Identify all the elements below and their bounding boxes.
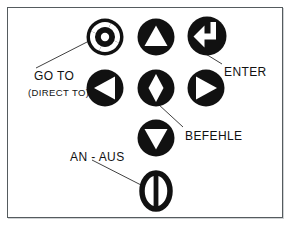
leader-line-go-to (36, 41, 89, 68)
button-befehle[interactable] (137, 69, 175, 107)
label-enter: ENTER (224, 66, 267, 78)
label-go-to: GO TO (34, 70, 74, 82)
button-up[interactable] (137, 18, 175, 56)
enter-return-arrow-icon (187, 16, 227, 56)
button-right[interactable] (187, 69, 225, 107)
triangle-down-icon (137, 119, 175, 157)
button-power[interactable] (138, 170, 174, 212)
triangle-right-icon (187, 69, 225, 107)
button-enter[interactable] (187, 16, 227, 56)
label-direct-to: (DIRECT TO) (28, 88, 89, 98)
button-down[interactable] (137, 119, 175, 157)
keypad-callout-diagram: GO TO (DIRECT TO) ENTER BEFEHLE AN - AUS (0, 0, 292, 227)
triangle-up-icon (137, 18, 175, 56)
button-left[interactable] (86, 69, 124, 107)
label-an-aus: AN - AUS (70, 151, 125, 163)
power-on-off-icon (138, 170, 174, 212)
triangle-left-icon (86, 69, 124, 107)
label-befehle: BEFEHLE (185, 130, 243, 142)
button-go-to[interactable] (86, 18, 124, 56)
goto-target-icon (86, 18, 124, 56)
diamond-icon (137, 69, 175, 107)
